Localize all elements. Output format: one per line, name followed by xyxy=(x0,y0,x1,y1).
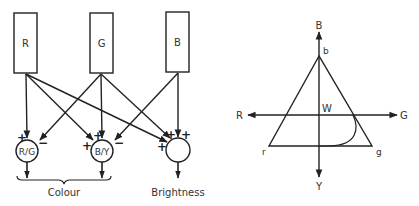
right-labels: B Y R G b r g W xyxy=(236,20,408,192)
receptor-label-b: B xyxy=(174,37,181,48)
receptor-label-r: R xyxy=(22,38,29,49)
axis-label-b: B xyxy=(316,20,323,31)
colour-label: Colour xyxy=(48,187,81,198)
colour-triangle xyxy=(269,56,372,146)
g-to-brightness-arrow xyxy=(101,74,170,138)
brightness-label: Brightness xyxy=(151,187,204,198)
channel-label-by: B/Y xyxy=(95,147,110,157)
vertex-label-r: r xyxy=(262,147,266,157)
brightness-plus-sign-3: + xyxy=(157,140,167,154)
rg-minus-sign: − xyxy=(38,136,48,150)
brightness-plus-sign-2: + xyxy=(181,128,191,142)
by-plus-sign-left: + xyxy=(82,139,92,153)
opponent-colour-figure: R G B R/G B/Y + − + + − + + + Colour Bri… xyxy=(0,0,419,206)
white-point-label: W xyxy=(322,103,332,114)
r-to-rg-arrow xyxy=(26,74,27,138)
vertex-label-b: b xyxy=(323,46,329,56)
r-to-by-arrow xyxy=(26,74,93,140)
colour-brace xyxy=(17,176,111,184)
axis-label-g: G xyxy=(400,110,408,121)
by-minus-sign: − xyxy=(114,136,124,150)
axis-label-r: R xyxy=(236,110,243,121)
vertex-label-g: g xyxy=(376,147,382,157)
receptor-label-g: G xyxy=(98,38,106,49)
g-to-rg-arrow xyxy=(40,74,101,140)
by-plus-sign-top: + xyxy=(93,129,103,143)
spectral-locus-curve xyxy=(319,115,356,146)
brightness-plus-sign-1: + xyxy=(166,128,176,142)
rg-plus-sign: + xyxy=(17,131,27,145)
axis-label-y: Y xyxy=(315,181,323,192)
channel-label-rg: R/G xyxy=(19,147,35,157)
